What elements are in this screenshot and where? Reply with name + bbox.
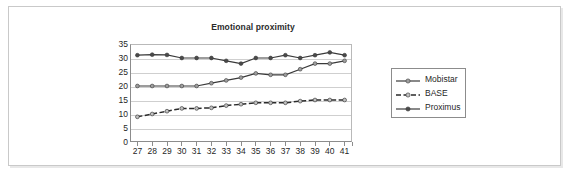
legend-line-icon — [395, 87, 421, 99]
legend-item-label: BASE — [425, 88, 448, 98]
legend-item-label: Mobistar — [425, 74, 458, 84]
legend-item-base[interactable]: BASE — [395, 86, 460, 100]
chart-screenshot: Emotional proximity 35302520151050 27282… — [0, 0, 575, 180]
legend-item-label: Proximus — [425, 102, 460, 112]
legend-item-proximus[interactable]: Proximus — [395, 100, 460, 114]
chart-legend: MobistarBASEProximus — [391, 68, 466, 118]
x-tick-label: 41 — [335, 146, 355, 156]
legend-line-icon — [395, 73, 421, 85]
chart-container: Emotional proximity 35302520151050 27282… — [8, 6, 561, 166]
legend-item-mobistar[interactable]: Mobistar — [395, 72, 460, 86]
legend-line-icon — [395, 101, 421, 113]
x-axis: 272829303132333435363738394041 — [8, 6, 561, 166]
x-tick-mark — [352, 142, 353, 146]
